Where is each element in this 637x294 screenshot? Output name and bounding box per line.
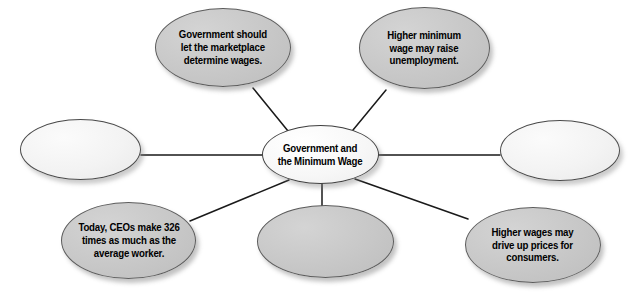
node-top-left-label: Government should let the marketplace de… [173, 28, 272, 66]
concept-map-diagram: Government should let the marketplace de… [0, 0, 637, 294]
node-bottom-right-label: Higher wages may drive up prices for con… [487, 226, 580, 264]
node-left-blank[interactable] [20, 119, 141, 180]
node-top-left[interactable]: Government should let the marketplace de… [155, 8, 291, 87]
node-bottom-right[interactable]: Higher wages may drive up prices for con… [465, 207, 601, 283]
node-top-right[interactable]: Higher minimum wage may raise unemployme… [359, 7, 490, 89]
node-bottom-center-blank[interactable] [257, 205, 394, 278]
node-center[interactable]: Government and the Minimum Wage [262, 125, 379, 184]
node-center-label: Government and the Minimum Wage [273, 142, 369, 168]
node-bottom-left[interactable]: Today, CEOs make 326 times as much as th… [61, 202, 196, 279]
node-right-blank[interactable] [500, 120, 620, 181]
node-top-right-label: Higher minimum wage may raise unemployme… [382, 29, 467, 67]
node-bottom-left-label: Today, CEOs make 326 times as much as th… [72, 221, 184, 259]
